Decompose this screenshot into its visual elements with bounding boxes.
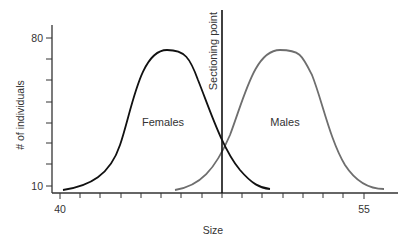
- y-ticks: [46, 38, 52, 186]
- sectioning-point-label: Sectioning point: [207, 12, 219, 90]
- y-tick-label-10: 10: [31, 180, 43, 192]
- males-label: Males: [270, 116, 300, 128]
- chart-container: 80 10 40 55 Size # of individuals Sectio…: [0, 0, 406, 239]
- y-tick-label-80: 80: [31, 32, 43, 44]
- x-tick-label-55: 55: [358, 203, 370, 215]
- x-tick-label-40: 40: [54, 203, 66, 215]
- x-axis-title: Size: [203, 224, 224, 236]
- y-axis-title: # of individuals: [14, 80, 26, 149]
- females-label: Females: [142, 116, 185, 128]
- chart-svg: 80 10 40 55 Size # of individuals Sectio…: [0, 0, 406, 239]
- x-ticks: [60, 193, 364, 199]
